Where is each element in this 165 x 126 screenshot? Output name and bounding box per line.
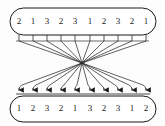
- input-digit: 2: [56, 16, 66, 26]
- output-digit: 3: [42, 103, 52, 113]
- converging-line: [82, 41, 146, 63]
- input-digit: 2: [127, 16, 137, 26]
- diverging-line: [33, 63, 82, 91]
- output-digit: 1: [14, 103, 24, 113]
- converging-line: [33, 41, 82, 63]
- output-digit: 1: [70, 103, 80, 113]
- output-digit: 2: [141, 103, 151, 113]
- output-digit: 1: [127, 103, 137, 113]
- bipartite-routing-figure: 2 1 3 2 3 1 2 3 2 1 1 2 3 2 1 3 2 3 1 2: [0, 0, 165, 126]
- converging-line: [19, 41, 82, 63]
- output-digit: 3: [113, 103, 123, 113]
- input-digit: 1: [141, 16, 151, 26]
- input-digit: 2: [14, 16, 24, 26]
- input-digit: 1: [28, 16, 38, 26]
- output-digit: 2: [56, 103, 66, 113]
- converging-line-group: [19, 41, 146, 63]
- input-digit: 3: [42, 16, 52, 26]
- converging-line: [82, 41, 132, 63]
- input-stub-group: [16, 35, 149, 41]
- diverging-line-group: [19, 63, 146, 91]
- input-digit: 3: [70, 16, 80, 26]
- output-digit: 3: [85, 103, 95, 113]
- input-digit: 3: [113, 16, 123, 26]
- output-digit: 2: [99, 103, 109, 113]
- input-digit: 2: [99, 16, 109, 26]
- arrowhead-group: [19, 88, 146, 90]
- output-digit: 2: [28, 103, 38, 113]
- input-digit: 1: [85, 16, 95, 26]
- converging-line: [82, 41, 118, 63]
